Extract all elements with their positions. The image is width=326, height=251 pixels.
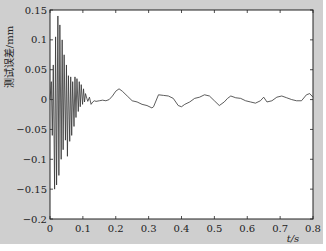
x-tick-label: 0.6 (239, 223, 255, 234)
y-axis-label: 测试误差/mm (3, 25, 15, 88)
y-tick-label: −0.05 (16, 124, 47, 135)
x-tick-label: 0.1 (75, 223, 91, 234)
x-tick-label: 0 (47, 223, 53, 234)
y-tick-label: 0.15 (25, 5, 47, 16)
y-tick-label: −0.2 (23, 214, 47, 225)
y-tick-label: 0 (41, 94, 47, 105)
x-tick-label: 0.8 (305, 223, 321, 234)
x-tick-label: 0.5 (206, 223, 222, 234)
x-axis-label: t/s (287, 233, 300, 244)
line-chart: 00.10.20.30.40.50.60.70.8 −0.2−0.15−0.1−… (0, 0, 326, 251)
y-tick-label: −0.15 (16, 184, 47, 195)
y-tick-label: 0.1 (31, 34, 47, 45)
plot-area (50, 10, 313, 219)
x-tick-label: 0.3 (141, 223, 157, 234)
x-tick-label: 0.2 (108, 223, 124, 234)
figure: 00.10.20.30.40.50.60.70.8 −0.2−0.15−0.1−… (0, 0, 326, 251)
x-tick-label: 0.4 (174, 223, 190, 234)
x-tick-label: 0.7 (272, 223, 288, 234)
y-tick-label: −0.1 (23, 154, 47, 165)
y-tick-label: 0.05 (25, 64, 47, 75)
